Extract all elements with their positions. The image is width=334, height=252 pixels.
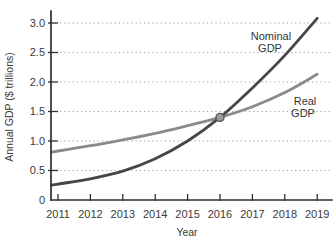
gdp-chart-figure: 00.51.01.52.02.53.0201120122013201420152… xyxy=(0,0,334,252)
real-gdp-curve xyxy=(52,74,318,152)
nominal-gdp-label-line1: Nominal xyxy=(251,30,291,42)
x-tick-label-2017: 2017 xyxy=(240,208,264,220)
x-tick-label-2018: 2018 xyxy=(273,208,297,220)
nominal-gdp-label-line2: GDP xyxy=(258,42,282,54)
y-tick-label-2.0: 2.0 xyxy=(30,76,45,88)
gridlines xyxy=(60,23,330,171)
x-tick-label-2019: 2019 xyxy=(305,208,329,220)
y-tick-label-1.0: 1.0 xyxy=(30,135,45,147)
nominal-real-intersection-marker xyxy=(216,113,224,121)
y-tick-label-1.5: 1.5 xyxy=(30,105,45,117)
x-tick-label-2012: 2012 xyxy=(78,208,102,220)
tick-labels: 00.51.01.52.02.53.0201120122013201420152… xyxy=(30,17,330,220)
x-tick-label-2015: 2015 xyxy=(175,208,199,220)
x-tick-label-2013: 2013 xyxy=(111,208,135,220)
real-gdp-label-line1: Real xyxy=(294,95,317,107)
y-tick-label-0: 0 xyxy=(39,194,45,206)
real-gdp-label-line2: GDP xyxy=(291,107,315,119)
intersection-marker-group xyxy=(216,113,224,121)
x-tick-label-2014: 2014 xyxy=(143,208,167,220)
x-tick-label-2011: 2011 xyxy=(46,208,70,220)
x-tick-label-2016: 2016 xyxy=(208,208,232,220)
y-tick-label-2.5: 2.5 xyxy=(30,46,45,58)
y-tick-label-0.5: 0.5 xyxy=(30,164,45,176)
x-axis-title: Year xyxy=(176,226,198,238)
y-tick-label-3.0: 3.0 xyxy=(30,17,45,29)
y-axis-title: Annual GDP ($ trillions) xyxy=(3,52,15,162)
gdp-line-chart: 00.51.01.52.02.53.0201120122013201420152… xyxy=(0,0,334,252)
